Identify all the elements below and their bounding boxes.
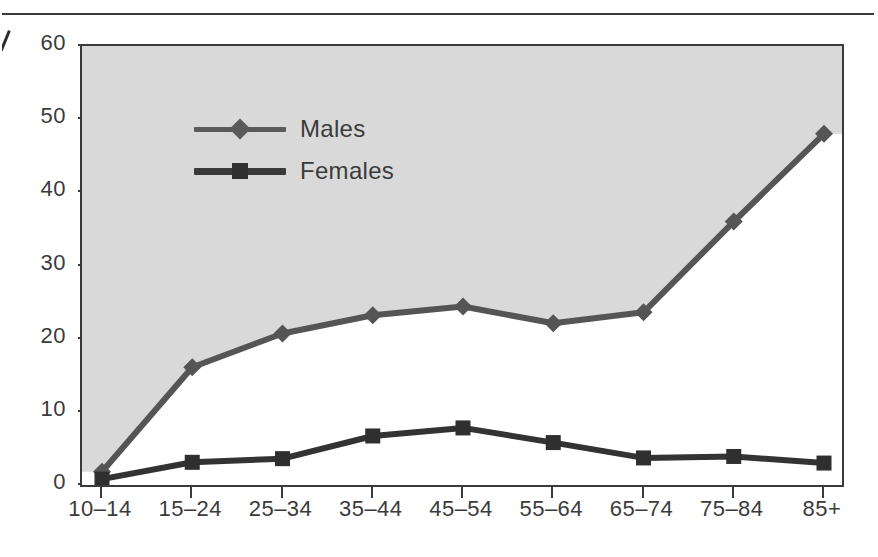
square-marker-icon [194,160,286,182]
x-tick-mark [461,486,463,498]
x-tick-mark [100,486,102,498]
x-tick-mark [732,486,734,498]
data-point-females [185,455,200,470]
x-tick-mark [822,486,824,498]
x-tick-label: 85+ [762,497,878,521]
data-point-females [726,449,741,464]
chart-legend: Males Females [194,112,394,196]
data-point-females [95,472,110,485]
data-point-females [365,428,380,443]
legend-label-females: Females [300,159,394,183]
shaded-region [82,46,842,472]
series-line-females [102,428,824,479]
legend-item-females: Females [194,154,394,188]
data-point-females [636,450,651,465]
data-point-females [546,435,561,450]
x-tick-mark [281,486,283,498]
diamond-marker-icon [194,118,286,140]
legend-item-males: Males [194,112,394,146]
x-tick-mark [190,486,192,498]
x-tick-mark [371,486,373,498]
x-tick-mark [642,486,644,498]
x-tick-mark [551,486,553,498]
data-point-females [456,420,471,435]
chart-figure: 6050403020100 10–1415–2425–3435–4445–545… [0,0,878,557]
plot-area: Males Females [80,44,844,487]
series-markers-females [95,420,832,485]
data-point-females [817,456,832,471]
legend-label-males: Males [300,117,366,141]
data-point-females [275,451,290,466]
